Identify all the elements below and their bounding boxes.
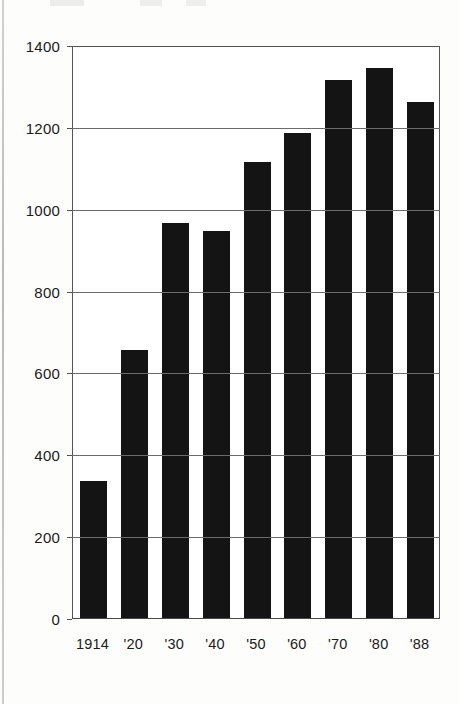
gridline	[72, 537, 440, 538]
y-axis-tick-label: 400	[0, 447, 60, 464]
y-axis-tick-label: 800	[0, 284, 60, 301]
page-edge	[2, 0, 4, 704]
y-axis-tick-label: 0	[0, 611, 60, 628]
y-axis-tick-label: 1200	[0, 120, 60, 137]
y-axis-tick-mark	[67, 46, 72, 47]
plot-area	[72, 46, 440, 619]
y-axis-tick-label: 1400	[0, 38, 60, 55]
y-axis-tick-mark	[67, 128, 72, 129]
y-axis-tick-mark	[67, 619, 72, 620]
bar-chart-figure: 0200400600800100012001400 1914'20'30'40'…	[0, 0, 459, 704]
gridline	[72, 373, 440, 374]
gridline	[72, 210, 440, 211]
x-axis-tick-label: '88	[390, 636, 450, 652]
bar	[162, 223, 189, 618]
y-axis-tick-mark	[67, 373, 72, 374]
y-axis-tick-mark	[67, 537, 72, 538]
bar	[366, 68, 393, 618]
y-axis-tick-label: 600	[0, 365, 60, 382]
y-axis-tick-label: 200	[0, 529, 60, 546]
bar	[284, 133, 311, 618]
gridline	[72, 455, 440, 456]
y-axis-tick-mark	[67, 292, 72, 293]
y-axis-tick-mark	[67, 455, 72, 456]
scan-artifact	[0, 0, 459, 6]
bar	[244, 162, 271, 618]
gridline	[72, 128, 440, 129]
y-axis-tick-label: 1000	[0, 202, 60, 219]
bars-layer	[73, 47, 439, 618]
gridline	[72, 292, 440, 293]
bar	[121, 350, 148, 618]
bar	[407, 102, 434, 618]
y-axis-tick-mark	[67, 210, 72, 211]
bar	[203, 231, 230, 618]
bar	[80, 481, 107, 618]
